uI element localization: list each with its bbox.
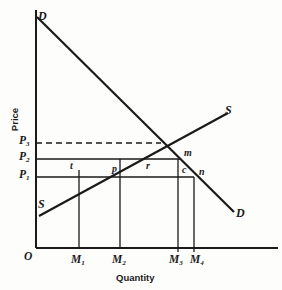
quantity-label-m2-base: M (112, 253, 122, 265)
price-label-p2: P2 (19, 151, 30, 163)
y-axis-title: Price (9, 100, 20, 140)
quantity-label-m2: M2 (112, 254, 126, 266)
supply-curve-label-bottom: S (38, 198, 45, 210)
region-label-r: r (146, 161, 150, 171)
point-label-m: m (184, 148, 192, 158)
price-label-p1-base: P (19, 168, 26, 180)
quantity-label-m1: M1 (71, 254, 85, 266)
quantity-label-m3-sub: 3 (179, 259, 183, 267)
supply-demand-figure: Price Quantity O P3 P2 P1 M1 M2 M3 M4 D … (0, 0, 282, 290)
quantity-label-m2-sub: 2 (122, 259, 126, 267)
price-label-p2-sub: 2 (26, 156, 30, 164)
region-label-c: c (182, 165, 186, 175)
quantity-label-m3-base: M (169, 253, 179, 265)
point-label-n: n (199, 167, 205, 177)
quantity-label-m1-base: M (71, 253, 81, 265)
price-label-p3-base: P (19, 134, 26, 146)
demand-curve (37, 17, 234, 212)
quantity-label-m4-sub: 4 (200, 259, 204, 267)
x-axis-title: Quantity (116, 272, 155, 283)
region-label-p: p (112, 164, 117, 174)
quantity-label-m1-sub: 1 (81, 259, 85, 267)
quantity-label-m4: M4 (190, 254, 204, 266)
supply-curve (39, 113, 228, 216)
diagram-canvas (0, 0, 282, 290)
quantity-label-m3: M3 (169, 254, 183, 266)
supply-curve-label-end: S (225, 104, 232, 116)
demand-curve-label-top: D (38, 10, 47, 22)
quantity-label-m4-base: M (190, 253, 200, 265)
price-label-p1: P1 (19, 169, 30, 181)
price-label-p1-sub: 1 (26, 174, 30, 182)
demand-curve-label-end: D (236, 207, 245, 219)
price-label-p2-base: P (19, 150, 26, 162)
origin-label: O (24, 251, 32, 263)
price-label-p3: P3 (19, 135, 30, 147)
price-label-p3-sub: 3 (26, 140, 30, 148)
region-label-t: t (70, 161, 73, 171)
